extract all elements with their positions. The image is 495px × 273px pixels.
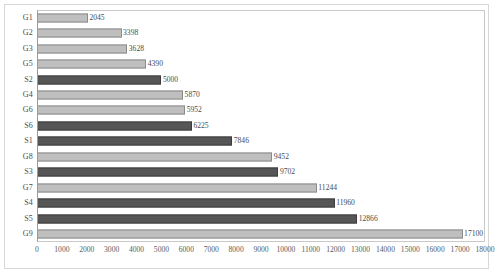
bar-track: 6225 [37, 118, 485, 133]
bar-value-label: 17100 [463, 230, 483, 238]
x-tick-label: 13000 [351, 246, 370, 254]
bar-row: G917100 [8, 226, 485, 241]
bar-row: S512866 [8, 211, 485, 226]
category-label: S6 [8, 122, 37, 130]
category-label: G3 [8, 45, 37, 53]
bar-value-label: 12866 [357, 215, 377, 223]
category-label: S2 [8, 76, 37, 84]
bar-value-label: 11244 [317, 184, 337, 192]
bar-track: 3628 [37, 41, 485, 56]
x-tick-label: 15000 [401, 246, 420, 254]
category-label: S1 [8, 137, 37, 145]
x-tick-label: 16000 [426, 246, 445, 254]
x-tick-label: 8000 [229, 246, 244, 254]
x-tick-label: 14000 [376, 246, 395, 254]
category-label: G2 [8, 29, 37, 37]
bar [37, 168, 278, 177]
bar-track: 11244 [37, 180, 485, 195]
bar-value-label: 3628 [127, 45, 144, 53]
bar-value-label: 9702 [278, 168, 295, 176]
bar-row: G711244 [8, 180, 485, 195]
bar-value-label: 2045 [88, 14, 105, 22]
x-tick-label: 1000 [54, 246, 69, 254]
bar-value-label: 5952 [185, 107, 202, 115]
bar-track: 12866 [37, 211, 485, 226]
bar [37, 183, 317, 192]
bar-value-label: 5000 [161, 76, 178, 84]
bar [37, 214, 357, 223]
bar-track: 11960 [37, 195, 485, 210]
bar-value-label: 11960 [335, 199, 355, 207]
bar-row: S411960 [8, 195, 485, 210]
bar [37, 152, 272, 161]
bar [37, 230, 463, 239]
bar-rows: G12045G23398G33628G54390S25000G45870G659… [8, 10, 485, 242]
bar-value-label: 9452 [272, 153, 289, 161]
category-label: G1 [8, 14, 37, 22]
bar-row: S66225 [8, 118, 485, 133]
category-label: G7 [8, 184, 37, 192]
bar [37, 90, 183, 99]
bar-track: 5870 [37, 87, 485, 102]
bar-track: 5000 [37, 72, 485, 87]
x-tick-label: 5000 [154, 246, 169, 254]
x-axis: 0100020003000400050006000700080009000100… [8, 246, 485, 260]
bar-row: G12045 [8, 10, 485, 25]
bar-track: 7846 [37, 134, 485, 149]
bar-row: G65952 [8, 103, 485, 118]
category-label: G9 [8, 230, 37, 238]
bar [37, 75, 161, 84]
bar-row: G89452 [8, 149, 485, 164]
x-tick-label: 11000 [301, 246, 320, 254]
x-tick-label: 4000 [129, 246, 144, 254]
category-label: G8 [8, 153, 37, 161]
category-label: S5 [8, 215, 37, 223]
bar [37, 121, 192, 130]
bar-row: S39702 [8, 165, 485, 180]
bar-row: G23398 [8, 25, 485, 40]
category-label: G6 [8, 106, 37, 114]
bar-value-label: 4390 [146, 60, 163, 68]
bar-track: 9702 [37, 165, 485, 180]
x-tick-label: 3000 [104, 246, 119, 254]
bar-value-label: 7846 [232, 138, 249, 146]
bar [37, 106, 185, 115]
x-tick-label: 7000 [204, 246, 219, 254]
bar-track: 17100 [37, 226, 485, 241]
bar-track: 2045 [37, 10, 485, 25]
x-axis-ticks: 0100020003000400050006000700080009000100… [37, 246, 485, 260]
category-label: S3 [8, 168, 37, 176]
bar [37, 44, 127, 53]
bar [37, 137, 232, 146]
x-tick-label: 2000 [79, 246, 94, 254]
x-tick-label: 9000 [253, 246, 268, 254]
x-tick-label: 17000 [451, 246, 470, 254]
bar [37, 29, 122, 38]
bar-track: 3398 [37, 25, 485, 40]
bar [37, 199, 335, 208]
bar [37, 13, 88, 22]
bar-row: S17846 [8, 134, 485, 149]
x-tick-label: 0 [35, 246, 39, 254]
bar-value-label: 6225 [192, 122, 209, 130]
bar-row: G33628 [8, 41, 485, 56]
bar [37, 60, 146, 69]
plot-wrapper: G12045G23398G33628G54390S25000G45870G659… [8, 10, 485, 242]
bar-track: 4390 [37, 56, 485, 71]
x-tick-label: 6000 [179, 246, 194, 254]
category-label: S4 [8, 199, 37, 207]
category-label: G4 [8, 91, 37, 99]
bar-track: 5952 [37, 103, 485, 118]
bar-value-label: 5870 [183, 91, 200, 99]
bar-value-label: 3398 [122, 29, 139, 37]
bar-row: S25000 [8, 72, 485, 87]
category-label: G5 [8, 60, 37, 68]
x-tick-label: 10000 [276, 246, 295, 254]
bar-row: G45870 [8, 87, 485, 102]
bar-row: G54390 [8, 56, 485, 71]
bar-track: 9452 [37, 149, 485, 164]
x-tick-label: 12000 [326, 246, 345, 254]
x-tick-label: 18000 [476, 246, 495, 254]
